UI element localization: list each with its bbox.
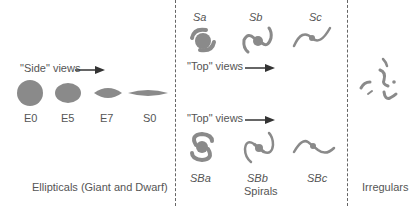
divider-ellipticals-spirals xyxy=(175,0,176,206)
type-label-s0: S0 xyxy=(143,112,156,124)
type-label-sa: Sa xyxy=(193,11,206,23)
type-label-sbc: SBc xyxy=(307,172,327,184)
galaxy-sa-icon xyxy=(188,26,218,54)
type-label-e7: E7 xyxy=(100,112,113,124)
galaxy-sc-icon xyxy=(292,26,332,50)
galaxy-s0-icon xyxy=(128,88,168,98)
ellipticals-title: Ellipticals (Giant and Dwarf) xyxy=(32,181,168,193)
type-label-e5: E5 xyxy=(61,112,74,124)
arrow-right-icon xyxy=(245,116,275,124)
spirals-title: Spirals xyxy=(244,185,278,197)
type-label-sbb: SBb xyxy=(247,172,268,184)
top-views-label-2: "Top" views xyxy=(187,112,243,124)
arrow-right-icon xyxy=(75,66,105,74)
top-views-label-1: "Top" views xyxy=(187,60,243,72)
galaxy-sbb-icon xyxy=(242,131,276,165)
side-views-label: "Side" views xyxy=(20,62,80,74)
galaxy-e7-icon xyxy=(94,86,122,100)
type-label-sb: Sb xyxy=(249,11,262,23)
irregulars-title: Irregulars xyxy=(362,181,408,193)
arrow-right-icon xyxy=(245,64,275,72)
galaxy-sb-icon xyxy=(242,26,274,54)
galaxy-e5-icon xyxy=(55,83,81,103)
type-label-sc: Sc xyxy=(309,11,322,23)
type-label-sba: SBa xyxy=(190,172,211,184)
galaxy-sbc-icon xyxy=(292,134,336,160)
type-label-e0: E0 xyxy=(24,112,37,124)
divider-spirals-irregulars xyxy=(347,0,348,206)
galaxy-sba-icon xyxy=(186,131,218,163)
galaxy-irregular-icon xyxy=(358,54,402,104)
galaxy-e0-icon xyxy=(16,79,44,107)
